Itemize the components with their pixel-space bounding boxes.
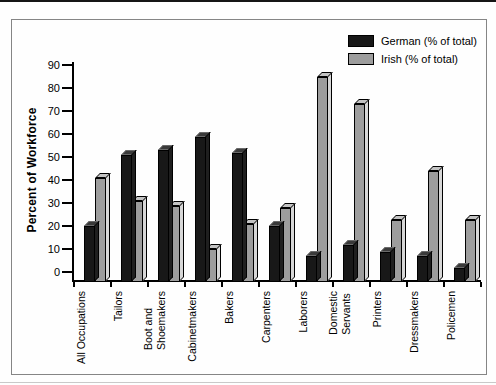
bar-front-face [417,256,428,282]
category-label-2: Boot and Shoemakers [142,291,168,350]
x-tick [221,282,223,287]
x-tick [443,282,445,287]
y-tick [62,248,73,250]
x-tick [147,282,149,287]
bar-front-face [84,226,95,282]
x-tick [480,282,482,287]
x-tick [184,282,186,287]
bar-front-face [454,268,465,282]
y-tick-label: 90 [36,58,60,72]
legend-swatch-irish [348,53,374,65]
y-tick [62,133,73,135]
y-tick-label: 10 [36,242,60,256]
bar-front-face [232,153,243,282]
category-label-5: Carpenters [260,291,273,343]
legend-label-german: German (% of total) [381,35,477,47]
category-label-10: Policemen [445,291,458,340]
category-label-8: Printers [371,291,384,327]
bar-front-face [269,226,280,282]
legend: German (% of total) Irish (% of total) [348,34,477,70]
bar-front-face [195,137,206,282]
y-tick [62,225,73,227]
y-tick [62,87,73,89]
y-tick [62,64,73,66]
x-tick [73,282,75,287]
legend-item-german: German (% of total) [348,34,477,47]
category-label-9: Dressmakers [408,291,421,353]
legend-swatch-german [348,35,374,47]
bar-front-face [306,256,317,282]
category-label-0: All Occupations [75,291,88,364]
y-tick-label: 40 [36,173,60,187]
y-tick-label: 30 [36,196,60,210]
bar-front-face [343,245,354,282]
category-label-4: Bakers [223,291,236,324]
scan-top-edge [0,0,496,2]
category-label-7: Domestic Servants [327,291,353,335]
legend-label-irish: Irish (% of total) [381,53,458,65]
category-label-1: Tailors [112,291,125,321]
y-tick [62,271,73,273]
x-tick [110,282,112,287]
y-tick-label: 70 [36,104,60,118]
x-tick [332,282,334,287]
scan-bottom-edge [0,382,496,383]
x-tick [369,282,371,287]
category-label-6: Laborers [297,291,310,332]
x-tick [406,282,408,287]
y-tick-label: 60 [36,127,60,141]
bar-front-face [158,150,169,282]
bar-front-face [380,252,391,282]
bar-front-face [121,155,132,282]
y-tick [62,202,73,204]
y-tick [62,179,73,181]
y-tick-label: 80 [36,81,60,95]
x-tick [295,282,297,287]
legend-item-irish: Irish (% of total) [348,52,477,65]
y-tick [62,156,73,158]
y-tick-label: 50 [36,150,60,164]
y-tick-label: 0 [36,265,60,279]
figure: Percent of Workforce 0102030405060708090… [0,0,496,385]
y-tick-label: 20 [36,219,60,233]
category-label-3: Cabinetmakers [186,291,199,362]
y-tick [62,110,73,112]
x-tick [258,282,260,287]
